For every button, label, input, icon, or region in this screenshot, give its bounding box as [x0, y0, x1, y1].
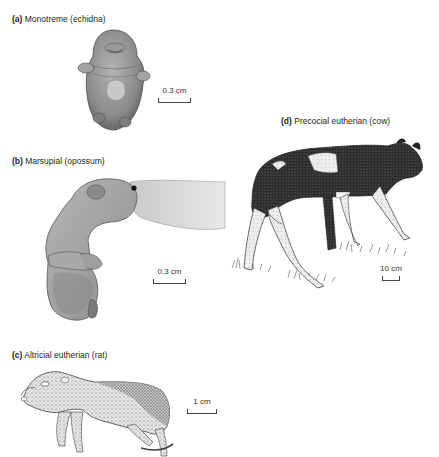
panel-b-label: (b) Marsupial (opossum) — [12, 157, 105, 166]
echidna-illustration — [75, 26, 155, 134]
panel-c-scale-bar: 1 cm — [187, 398, 217, 414]
rat-illustration — [15, 360, 175, 457]
panel-a-title: Monotreme (echidna) — [25, 14, 106, 24]
panel-a-label: (a) Monotreme (echidna) — [12, 15, 106, 24]
panel-b-scale-label: 0.3 cm — [153, 268, 186, 276]
panel-d-scale-label: 10 cm — [376, 265, 406, 273]
panel-d-title: Precocial eutherian (cow) — [294, 116, 390, 126]
panel-c-letter: (c) — [12, 350, 22, 360]
grass-icon — [232, 241, 406, 282]
calf-illustration — [228, 138, 433, 298]
panel-c-scale-label: 1 cm — [187, 398, 217, 406]
panel-b-letter: (b) — [12, 156, 23, 166]
scale-bar-line — [187, 409, 217, 414]
panel-d-label: (d) Precocial eutherian (cow) — [281, 117, 390, 126]
panel-b-title: Marsupial (opossum) — [25, 156, 104, 166]
opossum-illustration — [30, 170, 225, 320]
panel-b-scale-bar: 0.3 cm — [153, 268, 186, 284]
panel-d-scale-bar: 10 cm — [382, 265, 400, 281]
panel-a-letter: (a) — [12, 14, 22, 24]
scale-bar-line — [382, 276, 400, 281]
panel-a-scale-bar: 0.3 cm — [158, 87, 191, 103]
panel-d-letter: (d) — [281, 116, 292, 126]
panel-a-scale-label: 0.3 cm — [158, 87, 191, 95]
panel-c-label: (c) Altricial eutherian (rat) — [12, 351, 107, 360]
panel-c-title: Altricial eutherian (rat) — [24, 350, 107, 360]
scale-bar-line — [158, 98, 191, 103]
scale-bar-line — [153, 279, 186, 284]
